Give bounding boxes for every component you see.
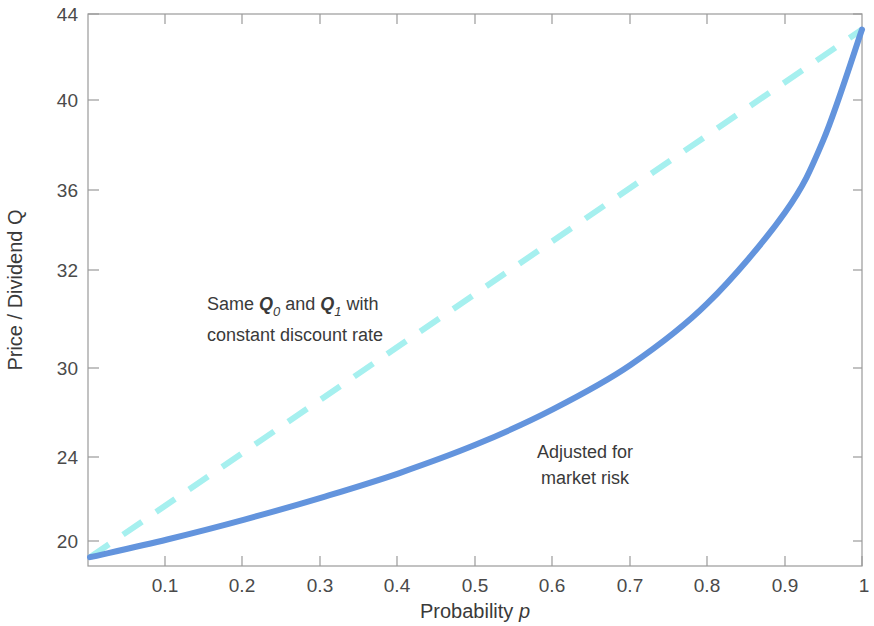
x-tick-label: 0.3 bbox=[307, 575, 333, 596]
y-tick-label: 44 bbox=[57, 4, 79, 25]
y-tick-label: 20 bbox=[57, 531, 78, 552]
annot-q0-symbol: Q bbox=[259, 294, 273, 314]
annot-text-pre: Same bbox=[207, 294, 259, 314]
y-tick-label: 30 bbox=[57, 358, 78, 379]
chart-svg: 44 40 36 32 30 24 20 bbox=[0, 0, 874, 626]
dashed-annotation-line2: constant discount rate bbox=[207, 325, 383, 345]
annot-text-post: with bbox=[342, 294, 379, 314]
y-axis-title: Price / Dividend Q bbox=[4, 209, 26, 370]
y-tick-label: 40 bbox=[57, 90, 78, 111]
x-tick-label: 0.2 bbox=[229, 575, 255, 596]
x-tick-label: 0.4 bbox=[384, 575, 411, 596]
x-tick-label: 0.9 bbox=[772, 575, 798, 596]
plot-area-border bbox=[88, 14, 862, 566]
x-tick-label: 1 bbox=[859, 575, 870, 596]
x-axis-title-variable: p bbox=[518, 600, 530, 622]
y-tick-label: 36 bbox=[57, 180, 78, 201]
x-axis-title-main: Probability bbox=[420, 600, 513, 622]
annot-q1-subscript: 1 bbox=[334, 304, 341, 319]
x-tick-label: 0.6 bbox=[539, 575, 565, 596]
x-tick-label: 0.5 bbox=[462, 575, 488, 596]
x-tick-label: 0.7 bbox=[617, 575, 643, 596]
chart-figure: 44 40 36 32 30 24 20 bbox=[0, 0, 874, 626]
annot-q1-symbol: Q bbox=[320, 294, 334, 314]
y-tick-label: 32 bbox=[57, 260, 78, 281]
solid-annotation-line1: Adjusted for bbox=[537, 442, 633, 462]
y-tick-label: 24 bbox=[57, 447, 79, 468]
x-axis-title: Probability p bbox=[420, 600, 530, 622]
solid-annotation-line2: market risk bbox=[541, 468, 630, 488]
annot-text-mid: and bbox=[280, 294, 320, 314]
x-tick-label: 0.8 bbox=[694, 575, 720, 596]
x-tick-label: 0.1 bbox=[152, 575, 178, 596]
